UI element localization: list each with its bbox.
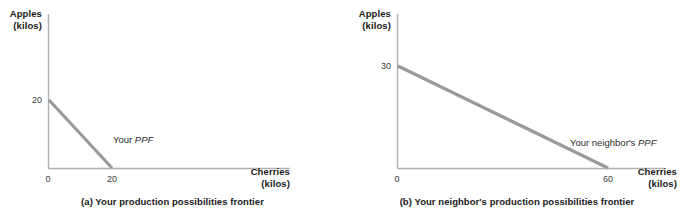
y-axis-title-line1-b: Apples <box>349 8 391 20</box>
curve-annotation-b: Your neighbor's PPF <box>570 137 657 148</box>
x-tick-60-b: 60 <box>594 174 622 184</box>
y-tick-20-a: 20 <box>14 95 42 105</box>
panel-your-ppf: Apples (kilos) Cherries (kilos) 20 0 20 … <box>0 0 345 219</box>
curve-annotation-prefix-b: Your neighbor's <box>570 137 638 148</box>
x-axis-title-a: Cherries (kilos) <box>228 166 290 190</box>
y-axis-title-line1-a: Apples <box>0 8 42 20</box>
caption-b: (b) Your neighbor's production possibili… <box>345 196 689 208</box>
curve-annotation-em-b: PPF <box>638 137 656 148</box>
curve-annotation-em-a: PPF <box>135 134 153 145</box>
x-axis-title-line2-a: (kilos) <box>228 178 290 190</box>
curve-annotation-a: Your PPF <box>113 134 153 145</box>
curve-annotation-prefix-a: Your <box>113 134 135 145</box>
y-axis-title-a: Apples (kilos) <box>0 8 42 32</box>
y-tick-30-b: 30 <box>363 61 391 71</box>
origin-tick-a: 0 <box>34 174 62 184</box>
origin-tick-b: 0 <box>383 174 411 184</box>
x-axis-title-line1-a: Cherries <box>228 166 290 178</box>
y-axis-title-line2-b: (kilos) <box>349 20 391 32</box>
caption-a: (a) Your production possibilities fronti… <box>0 196 345 208</box>
ppf-figure: Apples (kilos) Cherries (kilos) 20 0 20 … <box>0 0 689 219</box>
x-tick-20-a: 20 <box>98 174 126 184</box>
panel-neighbor-ppf: Apples (kilos) Cherries (kilos) 30 0 60 … <box>345 0 689 219</box>
ppf-curve-a <box>49 100 112 168</box>
x-axis-title-b: Cherries (kilos) <box>615 166 677 190</box>
y-axis-title-b: Apples (kilos) <box>349 8 391 32</box>
y-axis-title-line2-a: (kilos) <box>0 20 42 32</box>
ppf-curve-b <box>398 66 608 168</box>
x-axis-title-line1-b: Cherries <box>615 166 677 178</box>
plot-area-a <box>0 0 345 195</box>
x-axis-title-line2-b: (kilos) <box>615 178 677 190</box>
